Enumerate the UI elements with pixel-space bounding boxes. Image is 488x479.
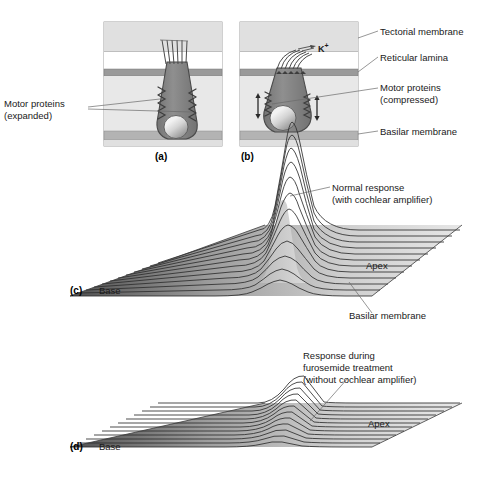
motor-proteins-label: Motor proteins: [380, 82, 441, 94]
motor-proteins-expanded-line2: (expanded): [4, 110, 52, 122]
reticular-lamina-band-a: [104, 69, 222, 76]
potassium-charge: +: [325, 42, 329, 49]
hair-cell-nucleus-b: [270, 106, 296, 131]
tectorial-membrane-label: Tectorial membrane: [380, 26, 463, 38]
panel-letter-b: (b): [241, 151, 254, 162]
apex-label-d: Apex: [368, 418, 390, 429]
membrane-surface-d: [70, 403, 462, 447]
panel-letter-d: (d): [70, 441, 83, 452]
normal-response-line2: (with cochlear amplifier): [332, 194, 432, 206]
subtectorial-space-b: [240, 52, 358, 69]
base-label-d: Base: [99, 441, 121, 452]
hair-cell-nucleus-a: [164, 116, 188, 139]
furosemide-line3: (without cochlear amplifier): [303, 374, 417, 386]
panel-c-waterfall: [70, 122, 462, 313]
panel-d-waterfall: [70, 376, 462, 447]
motor-proteins-expanded-line1: Motor proteins: [4, 98, 65, 110]
below-basilar-a: [104, 140, 222, 146]
reticular-lamina-label: Reticular lamina: [380, 52, 448, 64]
apex-label-c: Apex: [366, 260, 388, 271]
figure-root: Motor proteins (expanded) (a) (b) (c) (d…: [0, 0, 488, 479]
panel-letter-c: (c): [70, 285, 82, 296]
panel-a-group: [88, 22, 222, 146]
below-basilar-b: [240, 140, 358, 146]
base-label-c: Base: [99, 285, 121, 296]
normal-response-line1: Normal response: [332, 182, 404, 194]
figure-canvas: [0, 0, 488, 479]
panel-letter-a: (a): [155, 151, 167, 162]
furosemide-line1: Response during: [303, 350, 375, 362]
panel-b-group: [240, 22, 358, 146]
subtectorial-space-a: [104, 52, 222, 69]
motor-proteins-compressed-sub: (compressed): [380, 94, 438, 106]
tectorial-membrane-band-b: [240, 22, 358, 52]
basilar-membrane-label-c: Basilar membrane: [349, 310, 426, 322]
potassium-ion-label: K+: [318, 40, 329, 56]
basilar-membrane-label-b: Basilar membrane: [380, 126, 457, 138]
furosemide-line2: furosemide treatment: [303, 362, 393, 374]
